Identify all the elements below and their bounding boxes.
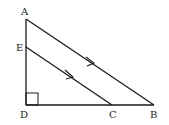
segment-ab xyxy=(26,19,154,105)
label-c: C xyxy=(109,109,117,120)
label-a: A xyxy=(20,6,29,17)
label-d: D xyxy=(20,109,28,120)
right-angle-marker xyxy=(26,93,38,105)
label-e: E xyxy=(16,42,23,53)
label-b: B xyxy=(150,109,157,120)
triangle-diagram: A E D C B xyxy=(0,0,169,125)
segment-ec xyxy=(26,47,112,105)
